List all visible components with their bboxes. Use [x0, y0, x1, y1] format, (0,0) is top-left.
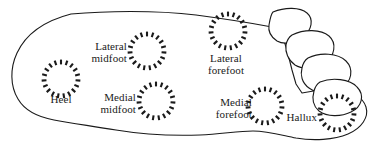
region-label-hallux: Hallux: [284, 112, 317, 124]
region-dash: [222, 13, 224, 18]
region-label-medial-forefoot: Medialforefoot: [200, 97, 252, 120]
region-dash: [342, 95, 344, 100]
region-dash: [161, 83, 163, 88]
region-dash: [318, 108, 323, 109]
region-label-lateral-midfoot: Lateralmidfoot: [79, 41, 127, 64]
region-dash: [339, 127, 340, 132]
region-dash: [209, 26, 214, 27]
region-dash: [158, 115, 159, 120]
region-dash: [55, 61, 57, 66]
region-dash: [144, 65, 145, 70]
region-label-line: Heel: [38, 94, 84, 106]
region-dash: [66, 61, 68, 66]
region-dash: [161, 46, 166, 47]
foot-regions-figure: HeelLateralmidfootMedialmidfootLateralfo…: [0, 0, 380, 150]
region-label-heel: Heel: [38, 94, 84, 106]
region-dash: [170, 96, 175, 97]
region-dash: [152, 33, 154, 38]
region-dash: [267, 120, 268, 125]
region-dash: [137, 96, 142, 97]
region-dash: [42, 74, 47, 75]
region-label-line: forefoot: [199, 65, 253, 77]
region-dash: [270, 88, 272, 93]
region-dash: [233, 13, 235, 18]
region-label-line: Lateral: [199, 53, 253, 65]
region-dash: [128, 46, 133, 47]
region-label-line: forefoot: [200, 109, 252, 121]
region-dash: [262, 120, 263, 125]
region-dash: [279, 101, 284, 102]
region-dash: [351, 108, 356, 109]
region-dash: [331, 95, 333, 100]
region-dash: [242, 26, 247, 27]
region-dash: [334, 127, 335, 132]
region-label-lateral-forefoot: Lateralforefoot: [199, 53, 253, 76]
region-dash: [225, 45, 226, 50]
region-dash: [153, 115, 154, 120]
region-label-medial-midfoot: Medialmidfoot: [88, 92, 136, 115]
region-label-line: Lateral: [79, 41, 127, 53]
region-dash: [75, 74, 80, 75]
region-label-line: midfoot: [88, 104, 136, 116]
region-label-line: Medial: [200, 97, 252, 109]
region-dash: [149, 65, 150, 70]
region-dash: [237, 16, 240, 20]
region-label-line: midfoot: [79, 53, 127, 65]
region-dash: [141, 33, 143, 38]
region-label-line: Medial: [88, 92, 136, 104]
region-dash: [259, 88, 261, 93]
region-dash: [150, 83, 152, 88]
region-label-line: Hallux: [284, 112, 317, 124]
foot-outline-svg: [0, 0, 380, 150]
region-dash: [230, 45, 231, 50]
